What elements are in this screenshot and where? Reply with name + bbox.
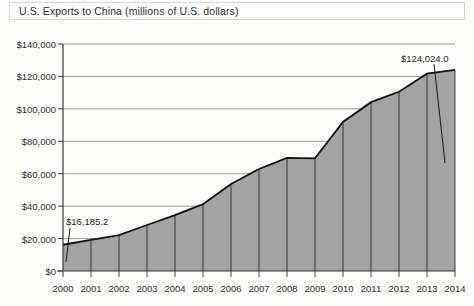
x-axis-ticks — [63, 271, 455, 277]
chart-plot-area — [0, 0, 474, 306]
area-series-group — [63, 70, 455, 271]
chart-container: U.S. Exports to China (millions of U.S. … — [0, 0, 474, 306]
